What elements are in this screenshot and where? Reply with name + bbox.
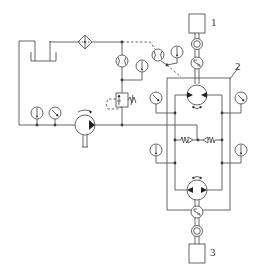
label-3: 3: [210, 246, 216, 258]
pressure-gauge-icon: [49, 107, 61, 119]
return-branch: [121, 41, 142, 127]
coupling-icon: [192, 39, 203, 50]
lower-pump-motor-icon: [187, 177, 207, 201]
thermometer-icon: [150, 144, 162, 156]
thermometer-icon: [167, 46, 183, 65]
unit-3-box: 3: [189, 244, 216, 263]
relief-valve-icon: [106, 93, 136, 109]
thermometer-icon: [31, 107, 43, 119]
drain-line: [122, 42, 181, 77]
label-1: 1: [211, 16, 217, 28]
filter-icon: [78, 35, 92, 49]
loop-lines: [156, 95, 241, 190]
check-valve-icon: [175, 137, 198, 143]
supply-line: [19, 119, 197, 126]
torque-sensor-icon: [191, 57, 203, 69]
unit-1-box: 1: [189, 14, 217, 33]
charge-pump-icon: [75, 110, 95, 147]
flow-meter-icon: [116, 55, 128, 67]
thermometer-icon: [136, 60, 148, 72]
tank-icon: [31, 41, 56, 61]
pressure-gauge-icon: [235, 92, 247, 104]
coupling-icon: [192, 226, 203, 237]
upper-pump-motor-icon: [187, 85, 207, 109]
flow-meter-icon: [152, 49, 167, 65]
label-2: 2: [235, 60, 241, 72]
check-valve-icon: [198, 137, 222, 143]
torque-sensor-icon: [191, 206, 203, 218]
pressure-gauge-icon: [150, 92, 162, 104]
thermometer-icon: [235, 144, 247, 156]
hydraulic-circuit-diagram: 1 2: [0, 0, 262, 277]
